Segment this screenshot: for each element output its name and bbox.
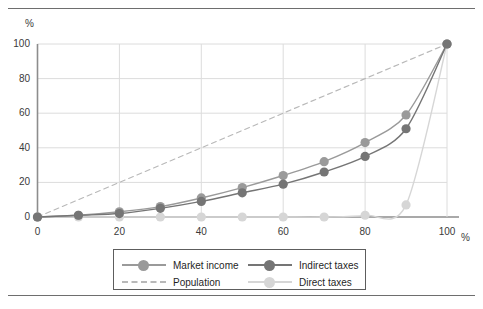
legend-label-population: Population	[166, 277, 220, 288]
y-tick-label: 100	[4, 38, 30, 49]
x-tick-label: 40	[188, 226, 214, 237]
legend-entry-indirect-taxes: Indirect taxes	[248, 257, 358, 273]
y-tick-label: 20	[4, 176, 30, 187]
legend-entry-population: Population	[122, 274, 220, 290]
x-tick-label: 20	[106, 226, 132, 237]
x-tick-label: 100	[434, 226, 460, 237]
chart-legend: Market income Indirect taxes Population …	[113, 249, 366, 290]
legend-label-indirect-taxes: Indirect taxes	[292, 260, 358, 271]
legend-entry-direct-taxes: Direct taxes	[248, 274, 352, 290]
chart-figure: % % 020406080100 020406080100 Market inc…	[0, 0, 483, 309]
x-tick-label: 0	[25, 226, 51, 237]
y-tick-label: 40	[4, 142, 30, 153]
y-tick-label: 0	[4, 211, 30, 222]
y-tick-label: 60	[4, 107, 30, 118]
y-tick-label: 80	[4, 73, 30, 84]
legend-label-market-income: Market income	[166, 260, 239, 271]
x-tick-label: 80	[352, 226, 378, 237]
legend-swatch-market-income	[122, 259, 166, 271]
legend-entry-market-income: Market income	[122, 257, 239, 273]
x-tick-label: 60	[270, 226, 296, 237]
legend-swatch-direct-taxes	[248, 276, 292, 288]
legend-swatch-population	[122, 276, 166, 288]
legend-swatch-indirect-taxes	[248, 259, 292, 271]
legend-label-direct-taxes: Direct taxes	[292, 277, 352, 288]
